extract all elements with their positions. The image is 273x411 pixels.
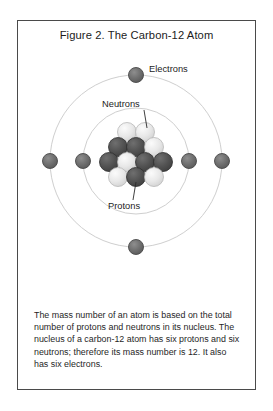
nucleus-cluster xyxy=(100,123,173,187)
electron-inner-left xyxy=(76,154,91,169)
neutron-particle xyxy=(145,168,164,187)
figure-title: Figure 2. The Carbon-12 Atom xyxy=(18,29,255,41)
atom-diagram: Electrons Neutrons Protons xyxy=(18,49,255,299)
electron-outer-top xyxy=(129,68,144,83)
neutron-particle xyxy=(109,168,128,187)
figure-frame: Figure 2. The Carbon-12 Atom xyxy=(17,20,256,390)
atom-diagram-svg: Electrons Neutrons Protons xyxy=(18,49,255,299)
electron-outer-right xyxy=(215,154,230,169)
figure-caption: The mass number of an atom is based on t… xyxy=(34,309,242,370)
electron-inner-right xyxy=(182,154,197,169)
neutrons-label: Neutrons xyxy=(102,99,140,109)
electrons-label: Electrons xyxy=(149,64,188,74)
electron-outer-bottom xyxy=(129,240,144,255)
electron-outer-left xyxy=(43,154,58,169)
protons-label: Protons xyxy=(108,201,140,211)
